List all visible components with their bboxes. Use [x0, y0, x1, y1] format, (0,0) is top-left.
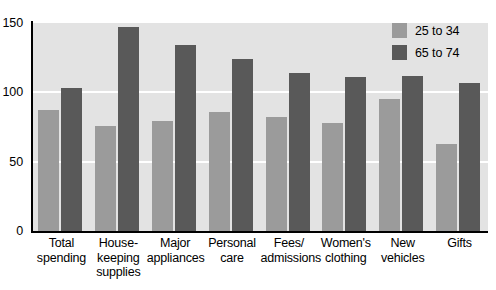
y-axis: 150100500 [0, 0, 28, 290]
x-axis-label-line: keeping [90, 251, 147, 266]
legend-label: 25 to 34 [415, 24, 459, 38]
bar-group [317, 23, 374, 231]
x-axis-label-line: spending [33, 251, 90, 266]
x-axis-label-line: Fees/ [261, 236, 318, 251]
bar [232, 59, 253, 231]
x-axis-label-line: clothing [317, 251, 374, 266]
bar [61, 88, 82, 231]
bar-group [33, 23, 90, 231]
x-axis-tick-label: Fees/admissions [261, 236, 318, 265]
x-axis-label-line: Personal [204, 236, 261, 251]
y-axis-tick-label: 150 [2, 16, 23, 30]
x-axis-label-line: House- [90, 236, 147, 251]
legend-item: 65 to 74 [392, 44, 488, 61]
x-axis-tick-label: Newvehicles [374, 236, 431, 265]
x-axis-label-line: New [374, 236, 431, 251]
bar [95, 126, 116, 231]
x-axis-label-line: Major [147, 236, 204, 251]
x-axis-line [31, 231, 488, 233]
y-axis-tick-label: 100 [2, 85, 23, 99]
bar [345, 77, 366, 231]
legend-swatch-icon [392, 45, 407, 60]
y-axis-tick-label: 50 [9, 155, 23, 169]
x-axis-label-line: Women's [317, 236, 374, 251]
bar [266, 117, 287, 231]
legend: 25 to 3465 to 74 [392, 22, 488, 66]
x-axis-tick-label: Majorappliances [147, 236, 204, 265]
bar [209, 112, 230, 231]
bar [436, 144, 457, 231]
x-axis-tick-label: Totalspending [33, 236, 90, 265]
legend-item: 25 to 34 [392, 22, 488, 39]
y-axis-tick-label: 0 [16, 224, 23, 238]
bar-chart: 150100500 TotalspendingHouse-keepingsupp… [0, 0, 496, 290]
bar [289, 73, 310, 231]
bar [175, 45, 196, 231]
bar [459, 83, 480, 231]
x-axis-label-line: Total [33, 236, 90, 251]
x-axis-tick-label: Gifts [431, 236, 488, 251]
x-axis-label-line: care [204, 251, 261, 266]
x-axis-label-line: vehicles [374, 251, 431, 266]
x-axis-label-line: appliances [147, 251, 204, 266]
bar [118, 27, 139, 231]
bar [38, 110, 59, 231]
bar [402, 76, 423, 231]
x-axis-label-line: supplies [90, 265, 147, 280]
x-axis-tick-label: House-keepingsupplies [90, 236, 147, 280]
bar-group [147, 23, 204, 231]
bar [322, 123, 343, 231]
legend-label: 65 to 74 [415, 46, 459, 60]
x-axis-label-line: Gifts [431, 236, 488, 251]
bar-group [261, 23, 318, 231]
x-axis: TotalspendingHouse-keepingsuppliesMajora… [33, 236, 488, 290]
x-axis-label-line: admissions [261, 251, 318, 266]
bar-group [90, 23, 147, 231]
x-axis-tick-label: Women'sclothing [317, 236, 374, 265]
x-axis-tick-label: Personalcare [204, 236, 261, 265]
bar [379, 99, 400, 231]
bar-group [204, 23, 261, 231]
legend-swatch-icon [392, 23, 407, 38]
bar [152, 121, 173, 231]
